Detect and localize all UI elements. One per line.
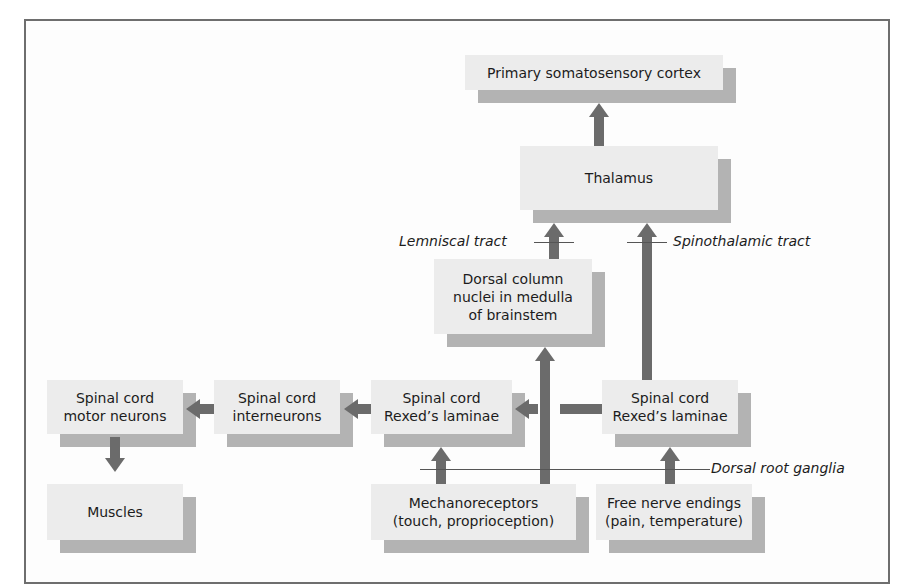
node-label-line: Rexed’s laminae xyxy=(612,407,727,425)
box-face: Spinal cord motor neurons xyxy=(47,380,183,434)
arrow-up-icon xyxy=(544,223,564,237)
node-label-line: nuclei in medulla xyxy=(453,288,573,306)
node-label-line: motor neurons xyxy=(63,407,166,425)
node-label-line: (touch, proprioception) xyxy=(393,512,554,530)
node-spinal-cord-interneurons: Spinal cord interneurons xyxy=(214,380,340,434)
box-face: Mechanoreceptors (touch, proprioception) xyxy=(371,484,576,540)
node-label-line: Rexed’s laminae xyxy=(384,407,499,425)
node-rexed-laminae-left: Spinal cord Rexed’s laminae xyxy=(371,380,512,434)
arrow-up-icon xyxy=(431,447,451,461)
arrow-rexed-right-to-rexed-left-shaft-stub xyxy=(528,404,538,414)
arrow-rexed-right-to-rexed-left-shaft-right xyxy=(560,404,602,414)
arrow-free-nerve-to-rexed-right-shaft xyxy=(665,460,675,484)
box-face: Thalamus xyxy=(520,146,718,210)
arrow-motor-to-muscles-shaft xyxy=(110,437,120,459)
spinothalamic-tract-leader-line xyxy=(627,242,667,243)
node-label-line: Spinal cord xyxy=(233,389,322,407)
arrow-rexed-left-to-interneurons-shaft xyxy=(357,404,371,414)
box-face: Spinal cord Rexed’s laminae xyxy=(371,380,512,434)
dorsal-root-ganglia-line xyxy=(420,469,710,470)
box-face: Spinal cord Rexed’s laminae xyxy=(602,380,738,434)
box-face: Muscles xyxy=(47,484,183,540)
arrow-interneurons-to-motor-shaft xyxy=(199,404,214,414)
node-mechanoreceptors: Mechanoreceptors (touch, proprioception) xyxy=(371,484,576,540)
arrow-up-icon xyxy=(589,103,609,117)
arrow-dorsal-to-thalamus-shaft xyxy=(549,236,559,259)
node-label-line: (pain, temperature) xyxy=(605,512,743,530)
arrow-left-icon xyxy=(515,399,529,419)
node-muscles: Muscles xyxy=(47,484,183,540)
arrow-left-icon xyxy=(344,399,358,419)
node-label: Muscles xyxy=(87,503,143,521)
dorsal-root-ganglia-label: Dorsal root ganglia xyxy=(711,460,845,476)
node-label: Thalamus xyxy=(585,169,653,187)
node-label-line: Spinal cord xyxy=(63,389,166,407)
lemniscal-tract-leader-line xyxy=(534,242,574,243)
node-label-line: of brainstem xyxy=(453,306,573,324)
node-label: Primary somatosensory cortex xyxy=(487,64,701,82)
arrow-up-icon xyxy=(535,347,555,361)
arrow-left-icon xyxy=(186,399,200,419)
node-primary-somatosensory-cortex: Primary somatosensory cortex xyxy=(465,55,723,90)
box-face: Spinal cord interneurons xyxy=(214,380,340,434)
node-label-line: Spinal cord xyxy=(612,389,727,407)
arrow-mechano-to-dorsal-shaft xyxy=(540,360,550,484)
node-dorsal-column-nuclei: Dorsal column nuclei in medulla of brain… xyxy=(434,259,592,334)
node-free-nerve-endings: Free nerve endings (pain, temperature) xyxy=(596,484,752,540)
arrow-up-icon xyxy=(660,447,680,461)
lemniscal-tract-label: Lemniscal tract xyxy=(399,233,507,249)
arrow-rexed-right-to-thalamus-shaft xyxy=(642,236,652,380)
node-label-line: interneurons xyxy=(233,407,322,425)
arrow-thalamus-to-cortex-shaft xyxy=(594,116,604,146)
node-label-line: Free nerve endings xyxy=(605,494,743,512)
node-label-line: Mechanoreceptors xyxy=(393,494,554,512)
arrow-mechano-to-rexed-left-shaft xyxy=(436,460,446,484)
node-label-line: Spinal cord xyxy=(384,389,499,407)
arrow-up-icon xyxy=(637,223,657,237)
box-face: Primary somatosensory cortex xyxy=(465,55,723,90)
node-thalamus: Thalamus xyxy=(520,146,718,210)
node-rexed-laminae-right: Spinal cord Rexed’s laminae xyxy=(602,380,738,434)
box-face: Dorsal column nuclei in medulla of brain… xyxy=(434,259,592,334)
box-face: Free nerve endings (pain, temperature) xyxy=(596,484,752,540)
node-label-line: Dorsal column xyxy=(453,270,573,288)
spinothalamic-tract-label: Spinothalamic tract xyxy=(673,233,810,249)
arrow-down-icon xyxy=(105,458,125,472)
node-spinal-cord-motor-neurons: Spinal cord motor neurons xyxy=(47,380,183,434)
